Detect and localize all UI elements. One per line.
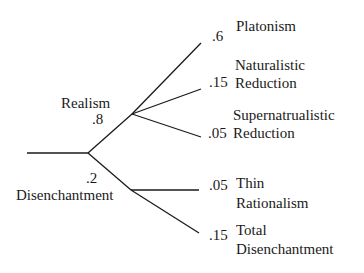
thin-rationalism-label-line1: Thin xyxy=(236,174,264,192)
realism-probability: .8 xyxy=(92,110,103,128)
edge-naturalistic-reduction xyxy=(132,89,201,114)
platonism-probability: .6 xyxy=(212,27,223,45)
supernaturalistic-reduction-probability: .05 xyxy=(208,124,227,142)
total-disenchantment-probability: .15 xyxy=(209,226,228,244)
edge-supernaturalistic-reduction xyxy=(132,114,201,137)
total-disenchantment-label-line2: Disenchantment xyxy=(236,240,333,258)
edge-total-disenchantment xyxy=(131,190,199,233)
naturalistic-reduction-label-line1: Naturalistic xyxy=(235,56,305,74)
disenchantment-label: Disenchantment xyxy=(16,186,113,204)
tree-lines xyxy=(0,0,364,273)
naturalistic-reduction-probability: .15 xyxy=(209,73,228,91)
edge-platonism xyxy=(132,43,201,114)
thin-rationalism-label-line2: Rationalism xyxy=(236,194,309,212)
thin-rationalism-probability: .05 xyxy=(209,176,228,194)
disenchantment-probability: .2 xyxy=(86,169,97,187)
supernaturalistic-reduction-label-line1: Supernatrualistic xyxy=(233,106,335,124)
supernaturalistic-reduction-label-line2: Reduction xyxy=(233,124,295,142)
platonism-label: Platonism xyxy=(236,17,296,35)
total-disenchantment-label-line1: Total xyxy=(236,221,267,239)
naturalistic-reduction-label-line2: Reduction xyxy=(235,74,297,92)
